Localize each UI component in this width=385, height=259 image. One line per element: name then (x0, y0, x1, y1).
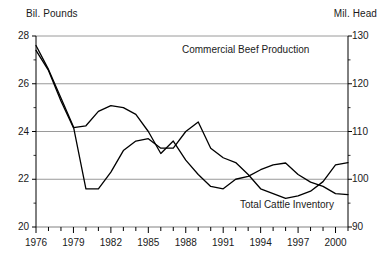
chart-container: Bil. Pounds Mil. Head 2826242220 1301201… (0, 0, 385, 259)
gridlines (36, 36, 348, 227)
data-series-lines (36, 46, 348, 199)
axis-tick-marks (32, 36, 352, 233)
plot-area (0, 0, 385, 259)
